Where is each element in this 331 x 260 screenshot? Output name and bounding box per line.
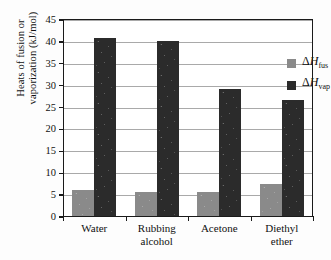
legend-item-vap: ΔHvap — [287, 76, 330, 93]
bar-fus — [260, 184, 282, 216]
bar-vap — [157, 41, 179, 216]
bar-vap — [219, 89, 241, 216]
x-axis-category-label: Diethyl ether — [251, 222, 314, 247]
y-axis-tick-label: 10 — [46, 168, 57, 179]
y-axis-tick-label: 25 — [46, 102, 57, 113]
bar-fus — [135, 192, 157, 216]
y-axis-tick-label: 40 — [46, 37, 57, 48]
y-axis-tick-label: 5 — [51, 190, 56, 201]
legend: ΔHfus ΔHvap — [287, 55, 330, 94]
y-axis-tick-label: 35 — [46, 59, 57, 70]
x-axis-tick — [188, 216, 189, 221]
subscript-vap: vap — [318, 83, 330, 92]
x-axis-category-label: Rubbing alcohol — [126, 222, 189, 247]
delta-glyph-fus: Δ — [302, 54, 310, 68]
plot-right-border — [312, 19, 314, 216]
legend-item-fus: ΔHfus — [287, 55, 330, 72]
bar-fus — [72, 190, 94, 216]
plot-area: 051015202530354045 ΔHfus ΔHvap — [63, 19, 313, 216]
y-axis-tick-label: 20 — [46, 124, 57, 135]
subscript-fus: fus — [318, 61, 328, 70]
bar-chart-figure: Heats of fusion or vaporization (kJ/mol)… — [0, 0, 331, 260]
y-axis-title-line-2: vaporization (kJ/mol) — [27, 12, 40, 105]
y-axis-title-line-1: Heats of fusion or — [15, 19, 28, 96]
y-axis-tick-label: 15 — [46, 146, 57, 157]
bar-group — [260, 20, 304, 216]
bar-vap — [94, 38, 116, 216]
y-axis-tick-label: 30 — [46, 80, 57, 91]
bar-group — [135, 20, 179, 216]
x-axis-category-label: Water — [63, 222, 126, 235]
x-axis-tick — [126, 216, 127, 221]
legend-label-vap: ΔHvap — [302, 76, 330, 93]
x-axis-category-label: Acetone — [188, 222, 251, 235]
x-axis-tick — [313, 216, 314, 221]
y-axis-tick-label: 0 — [51, 212, 56, 223]
bar-group — [72, 20, 116, 216]
x-axis-tick — [63, 216, 64, 221]
legend-swatch-vap — [287, 81, 296, 90]
bar-vap — [282, 100, 304, 216]
delta-glyph-vap: Δ — [302, 75, 310, 89]
y-axis-title: Heats of fusion or vaporization (kJ/mol) — [11, 0, 43, 151]
y-axis-tick-label: 45 — [46, 15, 57, 26]
bar-fus — [197, 192, 219, 217]
legend-swatch-fus — [287, 59, 296, 68]
legend-label-fus: ΔHfus — [302, 55, 328, 72]
x-axis-tick — [251, 216, 252, 221]
bar-series-container — [64, 20, 313, 216]
bar-group — [197, 20, 241, 216]
